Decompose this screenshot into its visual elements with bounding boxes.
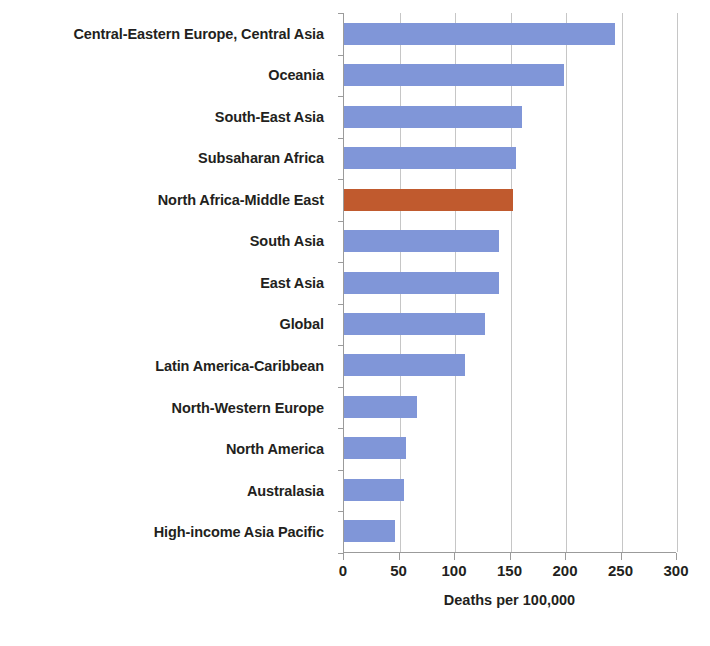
bar[interactable]	[344, 147, 516, 169]
x-axis-tick-label: 200	[552, 562, 577, 579]
bar[interactable]	[344, 23, 615, 45]
bar-row	[344, 137, 676, 178]
x-axis-tick	[510, 553, 511, 560]
bar-row	[344, 96, 676, 137]
bar[interactable]	[344, 189, 513, 211]
bar[interactable]	[344, 230, 499, 252]
x-axis-title: Deaths per 100,000	[343, 592, 676, 608]
bar-row	[344, 220, 676, 261]
bar[interactable]	[344, 396, 417, 418]
bar-chart: Central-Eastern Europe, Central AsiaOcea…	[0, 0, 710, 646]
category-label: Subsaharan Africa	[0, 138, 333, 180]
bar[interactable]	[344, 479, 404, 501]
bar-row	[344, 386, 676, 427]
plot-area	[343, 13, 676, 553]
x-axis-tick	[399, 553, 400, 560]
bar[interactable]	[344, 272, 499, 294]
category-label: Oceania	[0, 55, 333, 97]
category-label: Global	[0, 304, 333, 346]
x-axis-tick-label: 50	[390, 562, 407, 579]
category-label: Australasia	[0, 470, 333, 512]
bar[interactable]	[344, 106, 522, 128]
bar[interactable]	[344, 520, 395, 542]
bar-row	[344, 179, 676, 220]
x-axis-tick-label: 300	[663, 562, 688, 579]
gridline	[677, 13, 678, 552]
category-label: South Asia	[0, 221, 333, 263]
x-axis-ticks	[343, 553, 676, 561]
bar[interactable]	[344, 437, 406, 459]
category-label: North-Western Europe	[0, 387, 333, 429]
bar-row	[344, 303, 676, 344]
category-label: Latin America-Caribbean	[0, 345, 333, 387]
category-label: South-East Asia	[0, 96, 333, 138]
bar[interactable]	[344, 64, 564, 86]
bar-row	[344, 469, 676, 510]
x-axis-tick-label: 0	[339, 562, 347, 579]
bar-row	[344, 511, 676, 552]
bar-row	[344, 54, 676, 95]
bar-row	[344, 262, 676, 303]
category-label: North Africa-Middle East	[0, 179, 333, 221]
bar-series	[344, 13, 676, 552]
category-axis-labels: Central-Eastern Europe, Central AsiaOcea…	[0, 13, 333, 553]
bar-row	[344, 428, 676, 469]
category-label: North America	[0, 428, 333, 470]
x-axis-tick-labels: 050100150200250300	[343, 562, 676, 584]
category-label: East Asia	[0, 262, 333, 304]
x-axis-tick	[565, 553, 566, 560]
x-axis-tick	[676, 553, 677, 560]
bar[interactable]	[344, 313, 485, 335]
bar-row	[344, 13, 676, 54]
bar[interactable]	[344, 354, 465, 376]
category-label: High-income Asia Pacific	[0, 511, 333, 553]
x-axis-tick	[454, 553, 455, 560]
category-label: Central-Eastern Europe, Central Asia	[0, 13, 333, 55]
x-axis-tick-label: 250	[608, 562, 633, 579]
x-axis-tick-label: 100	[441, 562, 466, 579]
x-axis-tick	[621, 553, 622, 560]
x-axis-tick-label: 150	[497, 562, 522, 579]
x-axis-tick	[343, 553, 344, 560]
bar-row	[344, 345, 676, 386]
